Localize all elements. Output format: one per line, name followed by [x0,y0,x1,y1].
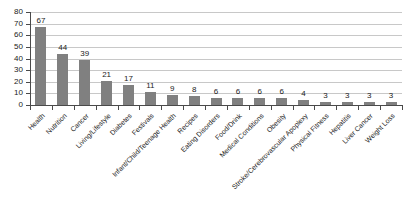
x-axis-tick [96,106,97,110]
bar-value-label: 4 [292,90,316,98]
x-axis-tick [118,106,119,110]
y-axis-tick [26,93,31,94]
bar [35,27,46,105]
x-axis-tick [249,106,250,110]
bar-value-label: 3 [313,92,337,100]
x-axis-tick [52,106,53,110]
y-axis-tick-label: 40 [1,55,23,63]
gridline [30,47,402,48]
x-axis-tick [293,106,294,110]
bar-value-label: 6 [248,88,272,96]
x-axis-tick [205,106,206,110]
x-axis-tick [380,106,381,110]
gridline [30,12,402,13]
bar-value-label: 6 [204,88,228,96]
y-axis-tick [26,82,31,83]
x-axis-tick [161,106,162,110]
bar [276,98,287,105]
bar [189,96,200,105]
x-axis-tick [183,106,184,110]
x-axis-tick [139,106,140,110]
y-axis-tick-label: 80 [1,8,23,16]
y-axis-tick-label: 0 [1,101,23,109]
bar [232,98,243,105]
bar-value-label: 3 [357,92,381,100]
x-axis-tick [74,106,75,110]
x-axis-tick [227,106,228,110]
bar [79,60,90,105]
y-axis-tick [26,70,31,71]
y-axis-tick [26,47,31,48]
bar-value-label: 3 [335,92,359,100]
category-label-text: Health [27,112,47,132]
bar-value-label: 11 [138,82,162,90]
bar-value-label: 44 [51,44,75,52]
bar-value-label: 6 [270,88,294,96]
bar [145,92,156,105]
y-axis-tick [26,59,31,60]
x-axis-tick [30,106,31,110]
x-axis-tick [271,106,272,110]
bar-value-label: 3 [379,92,403,100]
y-axis-tick-label: 20 [1,78,23,86]
y-axis-tick-label: 30 [1,66,23,74]
y-axis-tick-label: 10 [1,89,23,97]
bar-value-label: 8 [182,86,206,94]
y-axis-tick-label: 70 [1,20,23,28]
y-axis-tick-label: 50 [1,43,23,51]
y-axis-tick [26,35,31,36]
bar [123,85,134,105]
bar [167,95,178,105]
x-axis-line [30,105,403,106]
bar-value-label: 9 [160,85,184,93]
bar-value-label: 21 [95,71,119,79]
bar [57,54,68,105]
y-axis-tick-label: 60 [1,31,23,39]
bar-value-label: 6 [226,88,250,96]
bar-value-label: 67 [29,17,53,25]
bar-chart: 01020304050607080 6744392117119866664333… [0,0,418,224]
bar [254,98,265,105]
bar-value-label: 39 [73,50,97,58]
x-axis-tick [402,106,403,110]
gridline [30,35,402,36]
bar-value-label: 17 [116,75,140,83]
x-axis-tick [358,106,359,110]
x-axis-tick [314,106,315,110]
x-axis-tick [336,106,337,110]
y-axis-tick [26,12,31,13]
gridline [30,24,402,25]
bar [211,98,222,105]
bar [101,81,112,105]
